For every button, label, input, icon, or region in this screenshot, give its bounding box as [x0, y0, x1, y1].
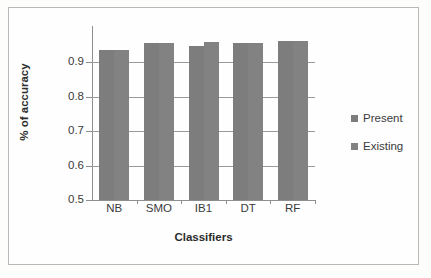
bar-group: [99, 28, 129, 200]
y-tick-label: 0.6: [44, 160, 84, 172]
y-axis-tick-labels: 0.50.60.70.80.9: [36, 0, 84, 278]
x-tick-mark: [270, 200, 271, 204]
bar-nb-existing[interactable]: [114, 50, 129, 200]
legend-swatch-icon: [351, 143, 358, 150]
bar-group: [189, 28, 219, 200]
plot-area: [92, 28, 315, 200]
bar-smo-present[interactable]: [144, 43, 159, 200]
x-tick-mark: [137, 200, 138, 204]
bar-dt-existing[interactable]: [248, 43, 263, 200]
x-tick-label-rf: RF: [263, 203, 323, 215]
y-axis-title: % of accuracy: [18, 54, 30, 150]
bar-group: [278, 28, 308, 200]
y-tick-mark: [86, 97, 92, 98]
legend-label: Present: [363, 113, 403, 125]
bar-group: [144, 28, 174, 200]
legend-item-existing[interactable]: Existing: [351, 140, 421, 153]
x-tick-mark: [315, 200, 316, 204]
x-axis-tick-labels: NBSMOIB1DTRF: [92, 203, 315, 221]
y-tick-label: 0.8: [44, 91, 84, 103]
x-tick-mark: [181, 200, 182, 204]
y-tick-mark: [86, 200, 92, 201]
bar-nb-present[interactable]: [99, 50, 114, 200]
y-tick-mark: [86, 131, 92, 132]
y-tick-label: 0.9: [44, 56, 84, 68]
bar-dt-present[interactable]: [233, 43, 248, 200]
y-tick-mark: [86, 62, 92, 63]
legend-item-present[interactable]: Present: [351, 112, 421, 125]
bar-group: [233, 28, 263, 200]
x-tick-mark: [226, 200, 227, 204]
chart-screenshot: % of accuracy 0.50.60.70.80.9 NBSMOIB1DT…: [0, 0, 431, 278]
bar-rf-existing[interactable]: [293, 41, 308, 200]
bar-ib1-present[interactable]: [189, 46, 204, 200]
bar-smo-existing[interactable]: [159, 43, 174, 200]
legend-swatch-icon: [351, 115, 358, 122]
y-tick-label: 0.5: [44, 194, 84, 206]
legend-label: Existing: [363, 141, 403, 153]
y-tick-label: 0.7: [44, 125, 84, 137]
y-tick-mark: [86, 166, 92, 167]
bar-ib1-existing[interactable]: [204, 42, 219, 200]
x-axis-title: Classifiers: [92, 231, 315, 243]
chart-legend: PresentExisting: [351, 112, 421, 168]
gridline: [92, 200, 315, 201]
bar-rf-present[interactable]: [278, 41, 293, 200]
